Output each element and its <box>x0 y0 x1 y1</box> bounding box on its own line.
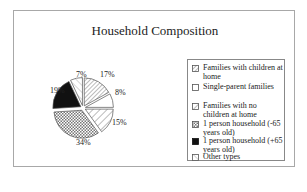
pattern-swatch-icon <box>192 84 199 91</box>
pattern-swatch-icon <box>192 65 199 72</box>
legend-item-one-person-under-65: 1 person household (-65 years old) <box>192 120 284 137</box>
legend-item-other-types: Other types <box>192 153 284 162</box>
pattern-swatch-icon <box>192 103 199 110</box>
legend-label: Other types <box>203 153 240 162</box>
pattern-swatch-icon <box>192 154 199 161</box>
slice-percent-label: 15% <box>112 118 127 127</box>
legend-item-families-no-children: Families with no children at home <box>192 102 284 119</box>
legend-label: Families with no children at home <box>203 102 284 119</box>
chart-frame: Household Composition 17%8%15%34%19%7% F… <box>13 10 295 167</box>
pattern-swatch-icon <box>192 121 199 128</box>
legend: Families with children at home Single-pa… <box>187 59 285 161</box>
legend-item-single-parent: Single-parent families <box>192 83 284 92</box>
slice-percent-label: 19% <box>50 86 65 95</box>
slice-percent-label: 17% <box>100 70 115 79</box>
slice-percent-label: 8% <box>115 88 126 97</box>
legend-label: Families with children at home <box>203 64 284 81</box>
slice-percent-label: 34% <box>76 138 91 147</box>
slice-percent-label: 7% <box>76 70 87 79</box>
legend-label: 1 person household (-65 years old) <box>203 120 284 137</box>
legend-item-families-with-children: Families with children at home <box>192 64 284 81</box>
pattern-swatch-icon <box>192 138 199 145</box>
legend-label: Single-parent families <box>203 83 274 92</box>
